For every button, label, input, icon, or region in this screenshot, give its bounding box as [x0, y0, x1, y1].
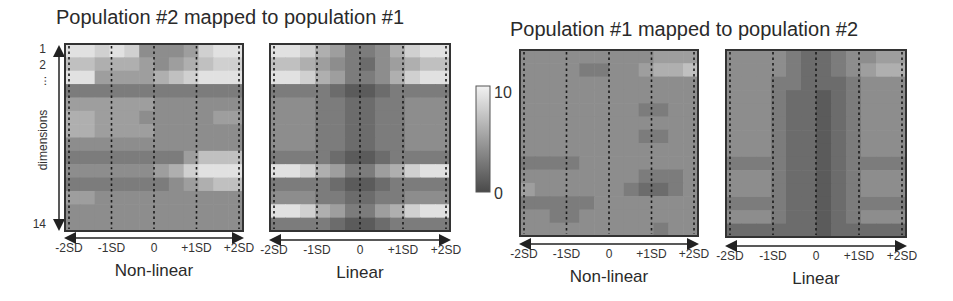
- x-axis-label: Linear: [792, 269, 840, 288]
- heatmap-cell: [405, 178, 421, 192]
- heatmap-cell: [550, 103, 565, 117]
- heatmap-cell: [846, 197, 862, 211]
- heatmap-cell: [65, 204, 80, 218]
- heatmap-cell: [65, 71, 80, 85]
- heatmap-cell: [579, 156, 594, 170]
- y-axis: 1 2 ... 14 dimensions: [33, 42, 59, 231]
- heatmap-cell: [270, 57, 286, 71]
- heatmap-cell: [654, 196, 669, 210]
- heatmap-cell: [594, 103, 609, 117]
- heatmap-cell: [594, 156, 609, 170]
- heatmap-cell: [169, 138, 184, 152]
- heatmap-cell: [95, 71, 110, 85]
- heatmap-cell: [771, 170, 787, 184]
- heatmap-cell: [213, 57, 228, 71]
- heatmap-cell: [390, 191, 406, 205]
- heatmap-cell: [330, 151, 346, 165]
- heatmap-cell: [213, 151, 228, 165]
- heatmap-cell: [228, 204, 243, 218]
- heatmap-cell: [139, 71, 154, 85]
- heatmap-cell: [405, 151, 421, 165]
- heatmap-cell: [139, 151, 154, 165]
- heatmap-cell: [801, 197, 817, 211]
- heatmap-cell: [360, 164, 376, 178]
- heatmap-cell: [65, 218, 80, 232]
- heatmap-cell: [891, 170, 907, 184]
- heatmap-cell: [520, 156, 535, 170]
- heatmap-cell: [831, 77, 847, 91]
- heatmap-cell: [330, 111, 346, 125]
- heatmap-cell: [360, 111, 376, 125]
- heatmap-cell: [639, 170, 654, 184]
- heatmap-cell: [609, 143, 624, 157]
- x-axis-label: Linear: [336, 263, 384, 282]
- heatmap-cell: [891, 77, 907, 91]
- heatmap-cell: [683, 116, 698, 130]
- heatmap-cell: [756, 117, 772, 131]
- heatmap-cell: [756, 224, 772, 238]
- heatmap-cell: [80, 138, 95, 152]
- heatmap-cell: [300, 138, 316, 152]
- heatmap-cell: [891, 144, 907, 158]
- heatmap-cell: [816, 50, 832, 64]
- heatmap-cell: [756, 63, 772, 77]
- heatmap-cell: [876, 224, 892, 238]
- heatmap-cell: [154, 204, 169, 218]
- heatmap-cell: [771, 224, 787, 238]
- heatmap-cell: [360, 124, 376, 138]
- heatmap-cell: [654, 170, 669, 184]
- heatmap-cell: [420, 151, 436, 165]
- heatmap-cell: [726, 210, 742, 224]
- heatmap-cell: [169, 164, 184, 178]
- heatmap-cell: [435, 138, 451, 152]
- heatmap-cell: [801, 144, 817, 158]
- heatmap-cell: [80, 97, 95, 111]
- heatmap-cell: [375, 178, 391, 192]
- heatmap-cell: [668, 116, 683, 130]
- heatmap-cell: [375, 97, 391, 111]
- heatmap-cell: [124, 191, 139, 205]
- heatmap-cell: [124, 151, 139, 165]
- heatmap-cell: [65, 111, 80, 125]
- heatmap-cell: [330, 191, 346, 205]
- heatmap-cell: [228, 44, 243, 58]
- heatmap-cell: [124, 84, 139, 98]
- heatmap-cell: [876, 103, 892, 117]
- x-tick-label: +1SD: [388, 243, 419, 257]
- heatmap-cell: [550, 156, 565, 170]
- heatmap-cell: [345, 44, 361, 58]
- heatmap-cell: [579, 223, 594, 237]
- heatmap-cell: [154, 44, 169, 58]
- heatmap-cell: [891, 103, 907, 117]
- heatmap-cell: [891, 210, 907, 224]
- x-tick-label: 0: [606, 247, 613, 261]
- heatmap-cell: [330, 84, 346, 98]
- heatmap-cell: [786, 90, 802, 104]
- heatmap-cell: [360, 84, 376, 98]
- heatmap-cell: [80, 164, 95, 178]
- heatmap-cell: [124, 57, 139, 71]
- heatmap-cell: [65, 164, 80, 178]
- heatmap-cell: [80, 178, 95, 192]
- heatmap-cell: [124, 138, 139, 152]
- heatmap-cell: [579, 183, 594, 197]
- heatmap-cell: [228, 97, 243, 111]
- heatmap-cell: [683, 90, 698, 104]
- heatmap-cell: [360, 138, 376, 152]
- heatmap-cell: [801, 103, 817, 117]
- heatmap-cell: [831, 197, 847, 211]
- heatmap-cell: [786, 210, 802, 224]
- heatmap-cell: [139, 97, 154, 111]
- heatmap-cell: [565, 77, 580, 91]
- heatmap-cell: [756, 103, 772, 117]
- heatmap-cell: [609, 63, 624, 77]
- heatmap-cell: [579, 63, 594, 77]
- x-tick-label: -1SD: [553, 247, 581, 261]
- heatmap-cell: [579, 50, 594, 64]
- heatmap-cell: [801, 157, 817, 171]
- heatmap-cell: [683, 63, 698, 77]
- heatmap-cell: [228, 111, 243, 125]
- heatmap-cell: [228, 178, 243, 192]
- heatmap-cell: [861, 117, 877, 131]
- heatmap-cell: [375, 71, 391, 85]
